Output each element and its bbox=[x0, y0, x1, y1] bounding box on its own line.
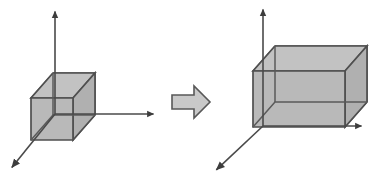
figure-canvas bbox=[0, 0, 371, 176]
figure-root bbox=[0, 0, 371, 176]
scaled-box-front-face bbox=[253, 71, 345, 127]
